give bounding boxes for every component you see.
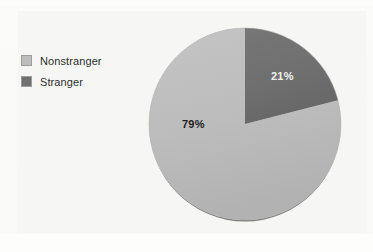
- pie-chart-plot-area: 79% 21%: [0, 0, 373, 252]
- pie-data-label-nonstranger: 79%: [182, 118, 205, 130]
- pie-data-label-stranger: 21%: [271, 70, 294, 82]
- pie-chart-screenshot: Nonstranger Stranger: [0, 0, 373, 252]
